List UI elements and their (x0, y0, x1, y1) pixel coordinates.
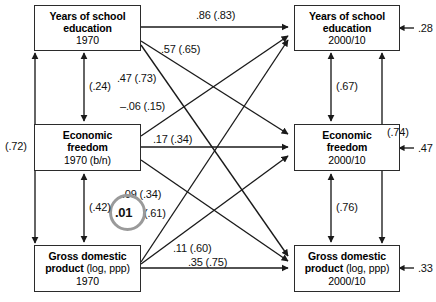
highlight-value: .01 (115, 205, 132, 220)
node-gdp1970-line1: Gross domestic (49, 250, 127, 262)
path-label-edu-edu: .86 (.83) (196, 9, 235, 21)
node-gdp2000-line1: Gross domestic (308, 250, 386, 262)
cov-label-left-outer: (.72) (5, 140, 27, 152)
path-label-edu-gdp: .47 (.73) (117, 72, 156, 84)
cov-label-left-top: (.24) (89, 80, 111, 92)
residual-label-edu2000: .28 (418, 22, 433, 34)
node-gdp2000-line2wrap: product (log, ppp) (305, 262, 390, 274)
node-edu2000-line3: 2000/10 (328, 34, 365, 46)
node-edu2000: Years of school education 2000/10 (294, 5, 400, 51)
node-gdp2000-line2b: (log, ppp) (346, 262, 389, 274)
node-edu1970: Years of school education 1970 (34, 5, 141, 51)
edge-gdp-edu (141, 40, 288, 262)
cov-label-left-bottom: (.42) (89, 201, 111, 213)
residual-label-gdp2000: .33 (418, 262, 433, 274)
node-edu1970-line2: education (63, 22, 112, 34)
path-label-free-free: .17 (.34) (153, 133, 192, 145)
node-gdp1970-line2wrap: product (log, ppp) (45, 262, 130, 274)
cov-label-right-bottom: (.76) (336, 201, 358, 213)
path-label-free-edu: –.06 (.15) (120, 100, 165, 112)
residual-label-free2000: .47 (418, 142, 433, 154)
node-edu1970-line1: Years of school (49, 10, 125, 22)
node-edu2000-line1: Years of school (309, 10, 385, 22)
node-edu1970-line3: 1970 (76, 34, 99, 46)
path-diagram: Years of school education 1970 Economic … (0, 0, 436, 302)
node-gdp2000-line3: 2000/10 (328, 275, 365, 287)
path-label-gdp-gdp: .35 (.75) (188, 256, 227, 268)
path-label-gdp-free: .11 (.60) (173, 242, 211, 254)
node-free2000-line2: freedom (327, 141, 368, 153)
node-free1970-line1: Economic (63, 129, 112, 141)
cov-label-right-top: (.67) (336, 80, 358, 92)
node-free1970-line3: 1970 (b/n) (64, 154, 111, 166)
node-edu2000-line2: education (323, 22, 372, 34)
node-gdp1970-line3: 1970 (76, 275, 99, 287)
node-gdp2000-line2: product (305, 262, 343, 274)
node-gdp1970: Gross domestic product (log, ppp) 1970 (34, 245, 141, 292)
node-free2000: Economic freedom 2000/10 (294, 124, 400, 171)
node-free2000-line3: 2000/10 (328, 154, 365, 166)
node-gdp1970-line2b: (log, ppp) (86, 262, 129, 274)
path-label-gdp-edu: (.61) (144, 207, 166, 219)
node-gdp1970-line2: product (45, 262, 83, 274)
node-free1970: Economic freedom 1970 (b/n) (34, 124, 141, 171)
node-free2000-line1: Economic (322, 129, 371, 141)
node-free1970-line2: freedom (67, 141, 108, 153)
path-label-edu-free: .57 (.65) (161, 43, 200, 55)
node-gdp2000: Gross domestic product (log, ppp) 2000/1… (294, 245, 400, 292)
cov-label-right-outer: (.74) (387, 126, 409, 138)
